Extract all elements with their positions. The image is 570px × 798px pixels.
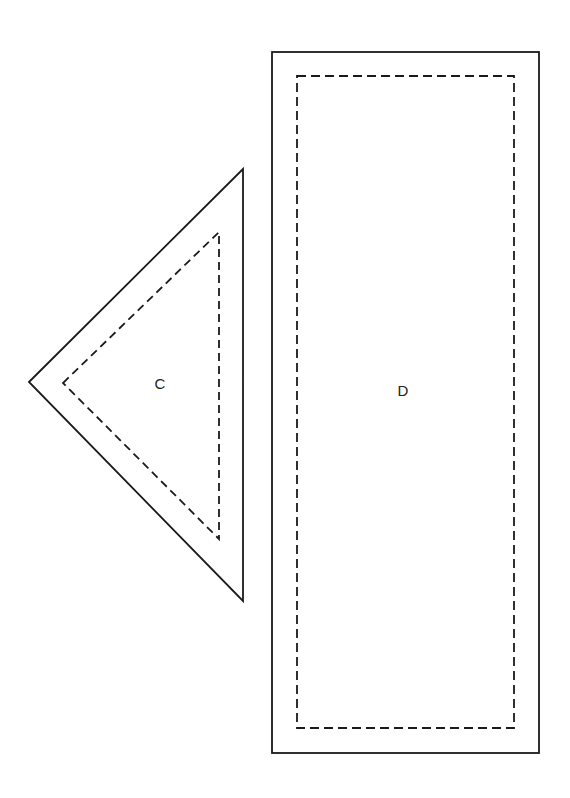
piece-d: [272, 52, 539, 753]
piece-c-label: C: [155, 376, 166, 391]
piece-c: [29, 169, 243, 601]
piece-d-seam-line: [297, 76, 514, 728]
piece-c-cut-line: [29, 169, 243, 601]
piece-d-cut-line: [272, 52, 539, 753]
pattern-diagram: [0, 0, 570, 798]
piece-d-label: D: [398, 383, 409, 398]
piece-c-seam-line: [63, 232, 219, 539]
